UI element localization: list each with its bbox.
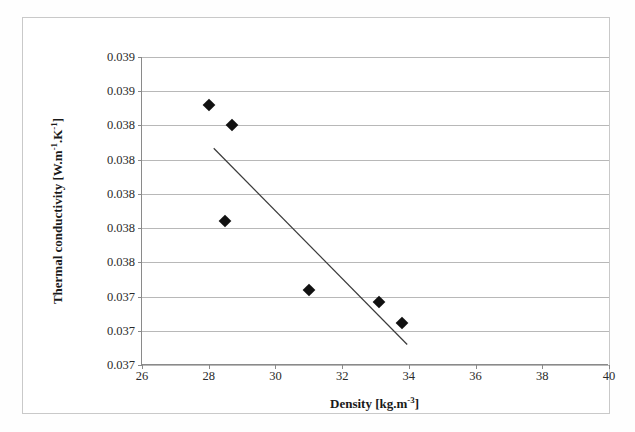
y-axis-title-unit-close: ] bbox=[50, 118, 65, 122]
x-axis-title-unit-close: ] bbox=[415, 396, 419, 411]
y-axis-title-exp2: -1 bbox=[49, 122, 59, 129]
y-axis-title-exp1: -1 bbox=[49, 143, 59, 150]
y-axis-title-name: Thermal conductivity bbox=[50, 184, 65, 304]
x-axis-title-unit-base: [kg.m bbox=[375, 396, 407, 411]
x-axis-title-name: Density bbox=[330, 396, 372, 411]
y-tick-label: 0.038 bbox=[107, 153, 135, 166]
gridline-horizontal bbox=[142, 365, 609, 366]
x-axis-title-exp: -3 bbox=[407, 395, 414, 405]
y-axis-title-unit-open: [W.m bbox=[50, 150, 65, 180]
x-tick-label: 26 bbox=[136, 370, 149, 383]
x-tick-label: 38 bbox=[536, 370, 549, 383]
y-tick-label: 0.038 bbox=[107, 188, 135, 201]
x-tick-label: 34 bbox=[403, 370, 416, 383]
x-tick-label: 28 bbox=[202, 370, 215, 383]
trendline-segment bbox=[214, 148, 407, 344]
x-tick-label: 30 bbox=[269, 370, 282, 383]
y-axis-title: Thermal conductivity [W.m-1.K-1] bbox=[50, 57, 66, 365]
y-tick-label: 0.037 bbox=[107, 359, 135, 372]
y-tick-label: 0.038 bbox=[107, 256, 135, 269]
x-tick-label: 32 bbox=[336, 370, 349, 383]
y-tick-label: 0.037 bbox=[107, 290, 135, 303]
x-tick-label: 36 bbox=[469, 370, 482, 383]
y-tick-label: 0.038 bbox=[107, 119, 135, 132]
figure-outer-frame: Thermal conductivity [W.m-1.K-1] Density… bbox=[22, 17, 610, 414]
trendline bbox=[142, 57, 609, 365]
plot-area: 0.0390.0390.0380.0380.0380.0380.0380.037… bbox=[141, 57, 608, 365]
y-tick-label: 0.038 bbox=[107, 222, 135, 235]
y-tick-label: 0.039 bbox=[107, 51, 135, 64]
x-axis-title: Density [kg.m-3] bbox=[141, 396, 608, 412]
y-tick-label: 0.037 bbox=[107, 325, 135, 338]
y-axis-title-unit-mid: .K bbox=[50, 130, 65, 143]
y-tick-label: 0.039 bbox=[107, 85, 135, 98]
figure-root: Thermal conductivity [W.m-1.K-1] Density… bbox=[0, 0, 635, 432]
x-tick-label: 40 bbox=[603, 370, 616, 383]
